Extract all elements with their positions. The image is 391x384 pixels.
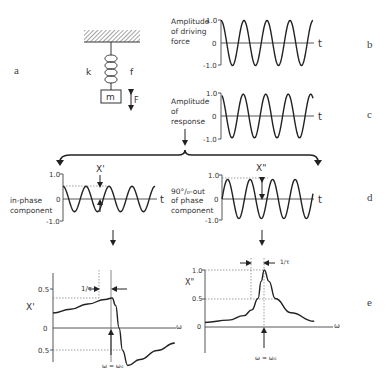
xdouble-tau-label: 1/τ <box>280 258 290 265</box>
spring-mass-diagram: m k f F <box>84 30 140 108</box>
split-brace <box>56 129 322 166</box>
panel-label-a: a <box>14 64 19 76</box>
out-of-phase-plot: 90°/₀-out of phase component 1.0 0 -1.0 … <box>171 163 322 225</box>
inphase-t-label: t <box>160 194 164 205</box>
xdoubleprime-spectrum: X" 1.0 0.5 0 1/τ ω = ω₀ ω <box>185 258 340 361</box>
xprime-curve <box>53 298 175 366</box>
response-label-line3: response <box>171 117 205 126</box>
response-plot: Amplitude of response 1.0 0 -1.0 t <box>171 90 322 144</box>
outphase-label-line3: component <box>171 206 213 215</box>
spring-coil-icon <box>105 55 117 83</box>
inphase-label-line2: component <box>10 206 52 215</box>
inphase-label-line1: in-phase <box>10 196 43 205</box>
outphase-label-line2: of phase <box>171 196 204 205</box>
response-label-line1: Amplitude <box>171 97 210 106</box>
driving-tick-zero: 0 <box>212 40 216 48</box>
driving-label-line1: Amplitude <box>171 17 210 26</box>
xdouble-tick-mid: 0.5 <box>192 295 202 303</box>
right-branch-arrow-icon <box>314 160 322 166</box>
inphase-marker-label: X' <box>96 164 105 174</box>
outphase-tick-top: 1.0 <box>208 172 219 180</box>
panel-label-c: c <box>367 108 372 120</box>
xdouble-ylabel: X" <box>185 278 194 287</box>
mass-label: m <box>106 92 115 102</box>
response-label-line2: of <box>171 107 179 116</box>
left-branch-arrow-icon <box>56 160 64 166</box>
driving-t-label: t <box>318 38 322 49</box>
spring-constant-label: k <box>86 67 92 77</box>
xdouble-tick-top: 1.0 <box>192 267 202 275</box>
response-tick-bottom: -1.0 <box>203 136 217 144</box>
driving-tick-top: 1.0 <box>206 17 217 25</box>
viscoelastic-response-figure: a b c d e m k f F Amplitude of driving f… <box>0 0 391 384</box>
xprime-tick-bottom: 0.5 <box>38 347 49 355</box>
driving-label-line3: force <box>171 37 190 46</box>
response-tick-zero: 0 <box>212 113 216 121</box>
ceiling-hatch <box>84 30 140 42</box>
inphase-tick-bottom: -1.0 <box>46 218 60 226</box>
panel-label-e: e <box>367 296 372 308</box>
xdouble-tick-bottom: 0 <box>197 323 201 331</box>
driving-force-plot: Amplitude of driving force 1.0 0 -1.0 t <box>171 17 322 70</box>
driving-tick-bottom: -1.0 <box>203 62 217 70</box>
response-t-label: t <box>318 111 322 122</box>
xprime-tick-zero: 0 <box>43 325 47 333</box>
outphase-label-line1: 90°/₀-out <box>171 187 205 196</box>
outphase-marker-label: X" <box>256 163 266 173</box>
panel-label-b: b <box>367 38 373 50</box>
driving-label-line2: of driving <box>171 27 207 36</box>
xdouble-res-label: ω = ω₀ <box>255 354 277 361</box>
outphase-tick-bottom: -1.0 <box>205 217 219 225</box>
xprime-tick-top: 0.5 <box>38 286 49 294</box>
xprime-spectrum: X' 0.5 0 0.5 1/τ ω = ω₀ ω <box>26 270 182 369</box>
panel-label-d: d <box>367 191 373 203</box>
force-label: F <box>134 96 139 105</box>
xprime-ylabel: X' <box>26 302 35 312</box>
xprime-x-label: ω <box>176 323 182 331</box>
outphase-t-label: t <box>318 194 322 205</box>
in-phase-plot: in-phase component 1.0 0 -1.0 X' t <box>10 164 164 226</box>
response-tick-top: 1.0 <box>206 90 217 98</box>
friction-label: f <box>130 67 134 77</box>
inphase-tick-zero: 0 <box>56 196 60 204</box>
xdouble-curve <box>205 270 314 322</box>
xprime-res-label: ω = ω₀ <box>102 362 124 369</box>
inphase-tick-top: 1.0 <box>49 171 60 179</box>
outphase-tick-zero: 0 <box>214 196 218 204</box>
xdouble-x-label: ω <box>334 322 340 330</box>
